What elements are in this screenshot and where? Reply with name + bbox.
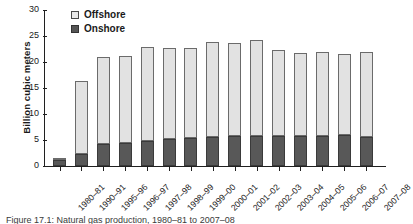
bar-segment-offshore (294, 53, 307, 137)
bar-segment-onshore (316, 136, 329, 166)
bar-segment-onshore (360, 137, 373, 166)
bar-segment-onshore (272, 136, 285, 166)
bar-1990-91[interactable] (75, 81, 88, 166)
bar-1996-97[interactable] (119, 56, 132, 166)
y-tick-label: 5 (17, 134, 39, 144)
bar-segment-offshore (316, 52, 329, 136)
x-tick-mark (191, 167, 192, 171)
y-tick: 5 (44, 140, 49, 141)
bar-segment-onshore (184, 138, 197, 166)
bar-segment-onshore (75, 154, 88, 166)
bar-segment-onshore (119, 143, 132, 166)
y-tick-label: 0 (17, 160, 39, 170)
y-tick-mark (43, 36, 47, 37)
bar-1995-96[interactable] (97, 57, 110, 166)
x-tick-mark (366, 167, 367, 171)
y-tick-mark (43, 62, 47, 63)
y-tick-label: 30 (17, 4, 39, 14)
x-tick-mark (125, 167, 126, 171)
bar-segment-offshore (163, 48, 176, 139)
y-tick-label: 15 (17, 82, 39, 92)
bar-segment-onshore (206, 137, 219, 166)
bar-segment-offshore (75, 81, 88, 154)
bar-2004-05[interactable] (294, 53, 307, 166)
y-tick: 0 (44, 166, 49, 167)
y-tick-mark (43, 10, 47, 11)
bar-2001-02[interactable] (228, 43, 241, 166)
x-tick-mark (103, 167, 104, 171)
bar-segment-onshore (228, 136, 241, 166)
bar-2003-04[interactable] (272, 50, 285, 166)
x-tick-mark (235, 167, 236, 171)
bar-2000-01[interactable] (206, 42, 219, 166)
bar-segment-offshore (184, 48, 197, 137)
x-tick-mark (213, 167, 214, 171)
y-tick-mark (43, 114, 47, 115)
x-tick-mark (279, 167, 280, 171)
bar-segment-onshore (163, 139, 176, 166)
y-tick-mark (43, 88, 47, 89)
bar-segment-offshore (206, 42, 219, 138)
x-tick-mark (322, 167, 323, 171)
x-tick-mark (300, 167, 301, 171)
bar-segment-offshore (141, 47, 154, 141)
bar-segment-offshore (250, 40, 263, 136)
bar-segment-offshore (272, 50, 285, 136)
x-tick-mark (60, 167, 61, 171)
bar-segment-offshore (119, 56, 132, 143)
bar-2007-08[interactable] (360, 52, 373, 166)
x-axis-line (44, 166, 386, 167)
y-tick-label: 10 (17, 108, 39, 118)
legend-item-onshore[interactable]: Onshore (71, 22, 126, 35)
bar-segment-offshore (360, 52, 373, 137)
y-tick: 30 (44, 10, 49, 11)
x-tick-mark (344, 167, 345, 171)
bar-segment-onshore (97, 144, 110, 166)
legend-item-offshore[interactable]: Offshore (71, 8, 126, 21)
light-square-swatch-icon (71, 11, 79, 19)
x-tick-mark (257, 167, 258, 171)
bar-2006-07[interactable] (338, 54, 351, 166)
y-tick-label: 20 (17, 56, 39, 66)
bar-segment-onshore (294, 136, 307, 166)
y-tick-label: 25 (17, 30, 39, 40)
y-tick: 25 (44, 36, 49, 37)
bar-2002-03[interactable] (250, 40, 263, 166)
bar-segment-onshore (338, 135, 351, 166)
legend-label-offshore: Offshore (84, 9, 126, 20)
bar-2005-06[interactable] (316, 52, 329, 166)
bar-segment-onshore (250, 136, 263, 166)
bar-segment-onshore (141, 141, 154, 166)
bar-segment-offshore (338, 54, 351, 135)
x-tick-mark (81, 167, 82, 171)
bar-segment-onshore (53, 160, 66, 166)
bar-segment-offshore (228, 43, 241, 136)
y-tick: 10 (44, 114, 49, 115)
x-tick-mark (147, 167, 148, 171)
bar-1980-81[interactable] (53, 158, 66, 166)
y-tick: 20 (44, 62, 49, 63)
dark-square-swatch-icon (71, 25, 79, 33)
bar-1997-98[interactable] (141, 47, 154, 166)
x-tick-mark (169, 167, 170, 171)
legend: Offshore Onshore (71, 8, 126, 36)
bar-1998-99[interactable] (163, 48, 176, 166)
legend-label-onshore: Onshore (84, 23, 125, 34)
y-tick-mark (43, 166, 47, 167)
figure-caption: Figure 17.1: Natural gas production, 198… (6, 215, 235, 224)
bar-1999-00[interactable] (184, 48, 197, 166)
bar-segment-offshore (97, 57, 110, 143)
y-tick: 15 (44, 88, 49, 89)
y-tick-mark (43, 140, 47, 141)
